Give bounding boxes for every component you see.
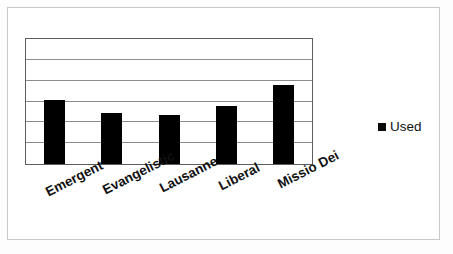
bar-evangelistic [101,113,122,164]
bar-liberal [216,106,237,164]
bar-emergent [44,100,65,164]
plot-area [25,38,313,165]
chart-outer-frame: EmergentEvangelisticLausanneLiberalMissi… [7,7,440,240]
legend-swatch-used-icon [378,123,386,131]
bar-missio-dei [273,85,294,164]
bar-lausanne [159,115,180,164]
chart-legend: Used [378,120,422,134]
bar-chart-figure: EmergentEvangelisticLausanneLiberalMissi… [0,0,453,254]
bars-layer [26,39,312,164]
legend-label-used: Used [390,120,422,134]
